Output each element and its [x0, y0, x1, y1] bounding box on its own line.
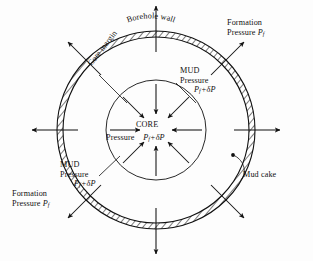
core-pressure-delta: +δP [150, 133, 165, 142]
core-pressure-label: Pressure Pf+δP [106, 133, 165, 145]
mud-pressure-value-bl: Pf+δP [60, 179, 96, 191]
mud-pressure-line1-tr: MUD [180, 66, 216, 76]
mud-pressure-line1-bl: MUD [60, 160, 96, 170]
mud-pressure-line2-tr: Pressure [180, 76, 216, 86]
figure-canvas: Borehole wall Core margin Mud cake CORE … [0, 0, 313, 261]
mud-cake-label: Mud cake [243, 170, 276, 180]
core-pressure-word: Pressure [106, 133, 135, 142]
formation-line2-tr: Pressure Pf [227, 28, 265, 40]
formation-pressure-label-bottom-left: Formation Pressure Pf [12, 189, 50, 211]
mud-cake-leader-dot [231, 153, 235, 157]
formation-pressure-label-top-right: Formation Pressure Pf [227, 18, 265, 40]
mud-pressure-value-tr: Pf+δP [180, 85, 216, 97]
formation-line2-bl: Pressure Pf [12, 199, 50, 211]
formation-line1-tr: Formation [227, 18, 265, 28]
mud-pressure-label-bottom-left: MUD Pressure Pf+δP [60, 160, 96, 191]
mud-pressure-line2-bl: Pressure [60, 170, 96, 180]
formation-line1-bl: Formation [12, 189, 50, 199]
core-title-label: CORE [136, 120, 158, 130]
mud-pressure-label-top-right: MUD Pressure Pf+δP [180, 66, 216, 97]
